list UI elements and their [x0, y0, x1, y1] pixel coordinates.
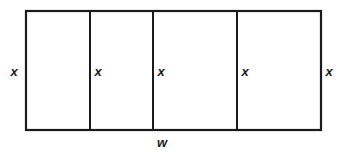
label-w-bottom: w	[157, 135, 168, 150]
label-x-divider-1: x	[93, 64, 102, 79]
enclosure-outer-rectangle	[26, 11, 321, 130]
diagram-canvas: x x x x x w	[0, 0, 348, 154]
label-x-divider-3: x	[240, 64, 249, 79]
label-x-left-outside: x	[9, 64, 18, 79]
label-x-right-outside: x	[324, 64, 333, 79]
label-x-divider-2: x	[156, 64, 165, 79]
figure-root: x x x x x w	[0, 0, 348, 154]
